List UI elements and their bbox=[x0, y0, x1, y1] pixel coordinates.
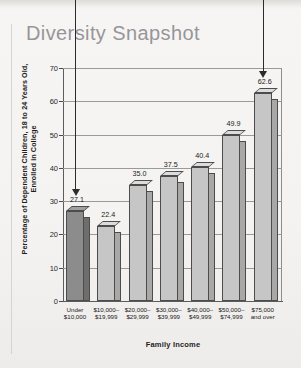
y-axis-tick-label: 0 bbox=[28, 297, 58, 306]
bar-side-face bbox=[178, 182, 184, 301]
bar-value-label: 37.5 bbox=[154, 160, 188, 169]
bar-value-label: 22.4 bbox=[91, 210, 125, 219]
bar-side-face bbox=[272, 99, 278, 301]
category-label-line: $75,000 bbox=[243, 306, 283, 313]
bar-top-face bbox=[254, 88, 278, 93]
bar-value-label: 27.1 bbox=[60, 195, 94, 204]
bar-front-face bbox=[191, 167, 209, 301]
bar-side-face bbox=[147, 191, 153, 302]
bar-front-face bbox=[66, 211, 84, 301]
bar-side-face bbox=[115, 232, 121, 301]
y-axis-tick-mark bbox=[59, 301, 63, 302]
bar-front-face bbox=[254, 93, 272, 301]
arrow-to-lowest-bar-line bbox=[75, 0, 76, 189]
bar bbox=[222, 135, 240, 301]
bar bbox=[254, 93, 272, 301]
bar-value-label: 62.6 bbox=[248, 77, 282, 86]
bar-value-label: 49.9 bbox=[216, 119, 250, 128]
bar bbox=[160, 176, 178, 301]
bar-series bbox=[63, 68, 282, 301]
bar bbox=[66, 211, 84, 301]
scanned-page: Diversity Snapshot 010203040506070 Perce… bbox=[0, 0, 301, 368]
category-label-line: and over bbox=[243, 313, 283, 320]
bar-value-label: 35.0 bbox=[123, 169, 157, 178]
y-axis-tick-label: 10 bbox=[28, 264, 58, 273]
bar-front-face bbox=[222, 135, 240, 301]
bar-front-face bbox=[97, 226, 115, 301]
arrow-to-highest-bar-line bbox=[263, 0, 264, 71]
bar-side-face bbox=[84, 217, 90, 301]
bar-value-label: 40.4 bbox=[185, 151, 219, 160]
x-axis-title: Family Income bbox=[63, 340, 283, 349]
bar-chart: 010203040506070 Percentage of Dependent … bbox=[0, 0, 301, 368]
bar-top-face bbox=[129, 180, 153, 185]
bar-top-face bbox=[222, 130, 246, 135]
bar bbox=[97, 226, 115, 301]
bar bbox=[129, 185, 147, 302]
bar-front-face bbox=[160, 176, 178, 301]
bar-top-face bbox=[191, 162, 215, 167]
bar-top-face bbox=[66, 206, 90, 211]
bar-front-face bbox=[129, 185, 147, 302]
y-axis-title: Percentage of Dependent Children, 18 to … bbox=[20, 54, 38, 264]
x-axis-category-label: $75,000and over bbox=[243, 306, 283, 321]
bar-side-face bbox=[209, 173, 215, 301]
bar-side-face bbox=[240, 141, 246, 301]
x-axis-line bbox=[63, 301, 283, 302]
bar-top-face bbox=[97, 221, 121, 226]
bar-top-face bbox=[160, 171, 184, 176]
bar bbox=[191, 167, 209, 301]
